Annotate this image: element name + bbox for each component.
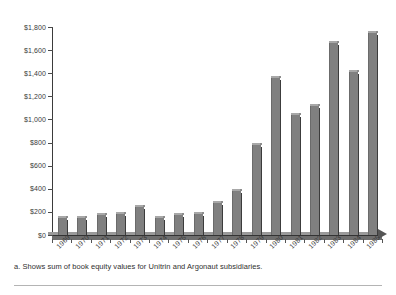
bar-top-bevel	[337, 41, 339, 43]
bar-top-face	[252, 143, 260, 145]
x-axis-tick	[343, 239, 344, 243]
bar-front-face	[252, 145, 261, 235]
bar-front-face	[135, 207, 144, 235]
bar-top-bevel	[202, 212, 204, 214]
x-axis-tick	[91, 239, 92, 243]
bar	[349, 72, 357, 235]
bar-top-face	[116, 212, 124, 214]
x-axis-tick	[227, 239, 228, 243]
x-axis-tick	[168, 239, 169, 243]
y-axis-tick-label: $0	[38, 232, 46, 239]
bar-front-face	[97, 215, 106, 235]
bar-top-bevel	[279, 76, 281, 78]
y-axis-tick	[48, 235, 53, 236]
bar-top-face	[291, 113, 299, 115]
bar-top-bevel	[163, 216, 165, 218]
bar-top-face	[329, 41, 337, 43]
x-axis-tick	[188, 239, 189, 243]
bar-front-face	[194, 214, 203, 235]
bar-top-face	[77, 216, 85, 218]
bar	[232, 191, 240, 235]
bar-chart: $0$200$400$600$800$1,000$1,200$1,400$1,6…	[0, 8, 396, 258]
bar-front-face	[232, 191, 241, 235]
bar-top-face	[135, 205, 143, 207]
bar	[174, 215, 182, 235]
bar-top-bevel	[85, 216, 87, 218]
x-axis-tick	[130, 239, 131, 243]
bar	[155, 218, 163, 235]
bar-top-face	[155, 216, 163, 218]
bar	[135, 207, 143, 235]
bar-top-face	[368, 31, 376, 33]
y-axis-tick-label: $1,000	[24, 116, 46, 123]
bar	[194, 214, 202, 235]
bar-front-face	[58, 218, 67, 235]
x-axis-tick	[285, 239, 286, 243]
y-axis-tick-label: $200	[30, 208, 46, 215]
bar-top-face	[213, 201, 221, 203]
bar	[271, 78, 279, 235]
y-axis-tick-label: $400	[30, 185, 46, 192]
footnote-text: a. Shows sum of book equity values for U…	[14, 262, 262, 272]
bar-top-bevel	[221, 201, 223, 203]
x-axis-tick	[363, 239, 364, 243]
bar-top-face	[58, 216, 66, 218]
chart-page: $0$200$400$600$800$1,000$1,200$1,400$1,6…	[0, 0, 396, 295]
x-axis-tick	[304, 239, 305, 243]
bar	[368, 33, 376, 235]
bar-top-bevel	[299, 113, 301, 115]
bar-top-bevel	[182, 213, 184, 215]
bar-front-face	[116, 214, 125, 235]
bottom-divider	[14, 285, 382, 286]
bar-front-face	[349, 72, 358, 235]
x-axis-tick	[52, 239, 53, 243]
bar-top-bevel	[105, 213, 107, 215]
bar-top-face	[232, 189, 240, 191]
bar-front-face	[213, 203, 222, 235]
bar	[213, 203, 221, 235]
bar-top-face	[194, 212, 202, 214]
bar-top-bevel	[318, 104, 320, 106]
bar-top-face	[97, 213, 105, 215]
x-axis-tick	[149, 239, 150, 243]
bar-top-bevel	[143, 205, 145, 207]
bar-front-face	[368, 33, 377, 235]
bar-front-face	[329, 43, 338, 235]
bar	[97, 215, 105, 235]
bar	[329, 43, 337, 235]
bar-top-bevel	[260, 143, 262, 145]
bar	[291, 115, 299, 235]
bar-top-face	[271, 76, 279, 78]
y-axis-tick-label: $1,200	[24, 93, 46, 100]
x-axis-tick	[266, 239, 267, 243]
bar-front-face	[174, 215, 183, 235]
bar	[252, 145, 260, 235]
bar-front-face	[271, 78, 280, 235]
x-axis-tick	[382, 239, 383, 243]
bar-top-bevel	[124, 212, 126, 214]
bar-top-face	[174, 213, 182, 215]
y-axis-tick-label: $600	[30, 162, 46, 169]
bar-top-bevel	[357, 70, 359, 72]
x-axis-tick	[71, 239, 72, 243]
x-axis-tick	[207, 239, 208, 243]
y-axis-tick-label: $1,600	[24, 47, 46, 54]
y-axis-tick-label: $800	[30, 139, 46, 146]
y-axis-tick-label: $1,400	[24, 70, 46, 77]
bar	[58, 218, 66, 235]
bar-top-bevel	[240, 189, 242, 191]
bar-top-face	[349, 70, 357, 72]
bar	[77, 218, 85, 235]
x-axis-tick	[246, 239, 247, 243]
bar	[310, 106, 318, 235]
bar-front-face	[291, 115, 300, 235]
bar-top-bevel	[376, 31, 378, 33]
bar-front-face	[155, 218, 164, 235]
bar	[116, 214, 124, 235]
x-axis-tick	[110, 239, 111, 243]
x-axis-tick	[324, 239, 325, 243]
bar-series	[52, 27, 382, 235]
bar-front-face	[310, 106, 319, 235]
bar-top-bevel	[66, 216, 68, 218]
y-axis-tick-label: $1,800	[24, 24, 46, 31]
